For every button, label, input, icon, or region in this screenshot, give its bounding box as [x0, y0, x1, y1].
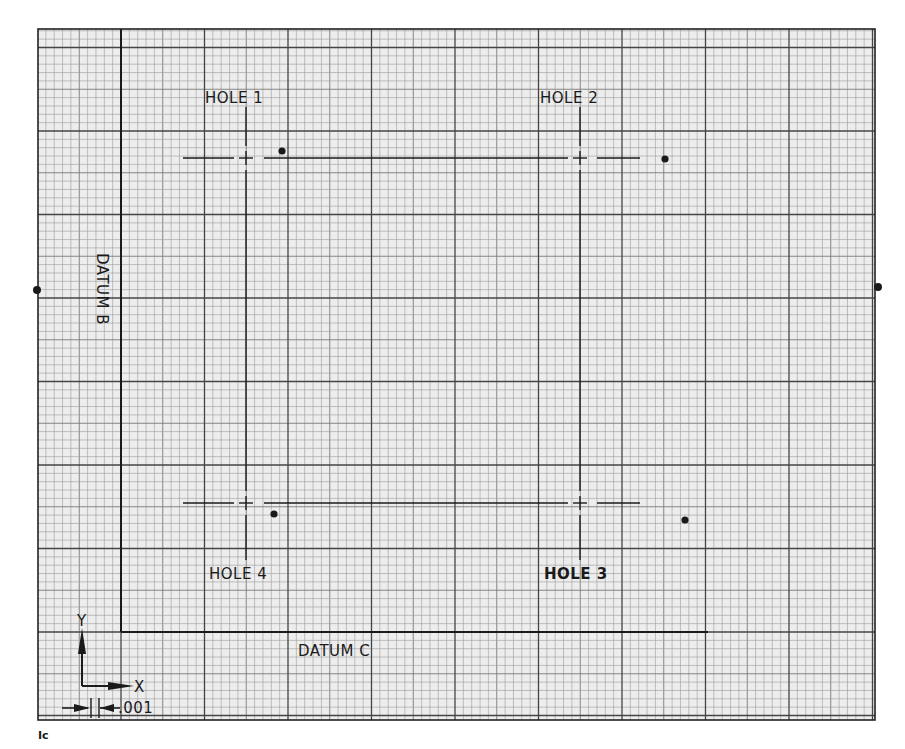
- edge-marker-right: [874, 283, 882, 291]
- y-axis-label: Y: [76, 612, 87, 630]
- edge-marker-left: [33, 286, 41, 294]
- hole-4-actual-point: [270, 510, 277, 517]
- hole-2-label: HOLE 2: [540, 89, 598, 107]
- figure-label: Ic: [38, 729, 49, 742]
- hole-3-label: HOLE 3: [544, 565, 608, 583]
- datum-b-label: DATUM B: [93, 253, 111, 325]
- grid-background: [38, 29, 875, 720]
- x-axis-label: X: [134, 678, 145, 696]
- inspection-grid-plot: DATUM B DATUM C HOLE 1 HOLE 2 HOLE 3 HOL…: [0, 0, 905, 749]
- hole-1-label: HOLE 1: [205, 89, 263, 107]
- hole-4-label: HOLE 4: [209, 565, 267, 583]
- scale-label: .001: [118, 699, 153, 717]
- hole-3-actual-point: [681, 516, 688, 523]
- hole-1-actual-point: [278, 147, 285, 154]
- datum-c-label: DATUM C: [298, 642, 370, 660]
- hole-2-actual-point: [661, 155, 668, 162]
